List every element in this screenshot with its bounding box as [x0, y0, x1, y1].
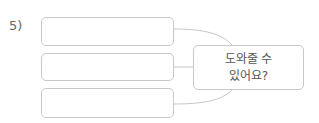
center-prompt-box: 도와줄 수 있어요?: [193, 45, 304, 90]
answer-box-1[interactable]: [41, 17, 174, 46]
center-prompt-line2: 있어요?: [225, 68, 273, 85]
answer-box-2[interactable]: [41, 53, 174, 81]
center-prompt-line1: 도와줄 수: [225, 51, 273, 68]
question-number: 5): [9, 18, 22, 33]
answer-box-3[interactable]: [41, 88, 174, 118]
